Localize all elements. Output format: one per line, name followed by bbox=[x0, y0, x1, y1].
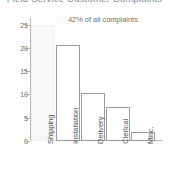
x-label-delivery: Delivery bbox=[96, 117, 105, 144]
y-tick-label: 15 bbox=[20, 68, 28, 75]
x-label-clerical: Clerical bbox=[121, 119, 130, 144]
y-tick-label: 5 bbox=[24, 114, 28, 121]
y-tick-label: 10 bbox=[20, 91, 28, 98]
bar-chart: Field Service Customer Complaints 42% of… bbox=[0, 0, 169, 190]
x-label-installation: Installation bbox=[71, 108, 80, 144]
y-tick-label: 0 bbox=[24, 138, 28, 145]
y-tick-label: 25 bbox=[20, 21, 28, 28]
x-label-shipping: Shipping bbox=[46, 114, 55, 144]
chart-title: Field Service Customer Complaints bbox=[0, 0, 169, 4]
x-label-misc: Misc. bbox=[146, 126, 155, 144]
y-tick-label: 20 bbox=[20, 44, 28, 51]
